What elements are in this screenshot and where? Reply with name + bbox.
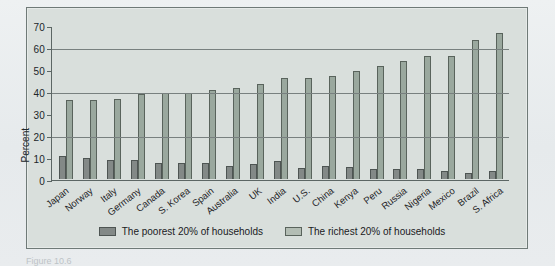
y-axis-tick-label: 60 (33, 44, 45, 55)
bar-richest (114, 99, 121, 179)
y-axis-tick-label: 0 (39, 176, 45, 187)
plot-wrapper: Percent 010203040506070 JapanNorwayItaly… (27, 8, 527, 248)
bar-richest (185, 93, 192, 179)
y-axis-tick-label: 50 (33, 66, 45, 77)
y-axis-title: Percent (20, 128, 31, 162)
x-axis-label-cell: S. Africa (486, 183, 510, 231)
gridline (52, 137, 509, 138)
x-axis-label-cell: Norway (76, 183, 100, 231)
bar-poorest (417, 169, 424, 179)
bar-richest (377, 66, 384, 179)
bar-richest (90, 100, 97, 179)
y-axis-tick (47, 71, 52, 72)
x-axis-label-cell: Australia (221, 183, 245, 231)
bar-poorest (489, 171, 496, 179)
x-axis-label: UK (247, 185, 264, 202)
bar-poorest (298, 168, 305, 179)
bar-poorest (83, 158, 90, 179)
bar-richest (496, 33, 503, 179)
gridline (52, 93, 509, 94)
bar-poorest (59, 156, 66, 179)
bar-poorest (346, 167, 353, 179)
x-axis-label-cell: India (269, 183, 293, 231)
bar-richest (329, 76, 336, 179)
figure-panel: Percent 010203040506070 JapanNorwayItaly… (26, 7, 528, 249)
bar-poorest (131, 160, 138, 179)
y-axis-tick (47, 27, 52, 28)
screenshot-root: Percent 010203040506070 JapanNorwayItaly… (0, 0, 555, 266)
bar-richest (66, 100, 73, 179)
bar-poorest (226, 166, 233, 179)
legend-swatch-richest (285, 227, 302, 236)
bar-poorest (250, 164, 257, 179)
chart-legend: The poorest 20% of householdsThe richest… (52, 226, 492, 237)
legend-item: The richest 20% of households (285, 226, 445, 237)
y-axis-tick (47, 115, 52, 116)
bar-poorest (155, 163, 162, 180)
y-axis-tick (47, 181, 52, 182)
x-axis-labels: JapanNorwayItalyGermanyCanadaS. KoreaSpa… (52, 183, 510, 231)
bar-richest (209, 90, 216, 179)
bar-poorest (465, 173, 472, 179)
legend-item: The poorest 20% of households (99, 226, 263, 237)
bar-richest (233, 88, 240, 179)
x-axis-label-cell: UK (245, 183, 269, 231)
x-axis-label-cell: S. Korea (173, 183, 197, 231)
y-axis-tick-label: 40 (33, 88, 45, 99)
y-axis-tick-label: 30 (33, 110, 45, 121)
gridline (52, 49, 509, 50)
x-axis-label-cell: U.S. (293, 183, 317, 231)
bar-poorest (274, 161, 281, 179)
legend-label: The poorest 20% of households (122, 226, 263, 237)
bar-richest (353, 71, 360, 179)
bar-richest (400, 61, 407, 179)
legend-label: The richest 20% of households (308, 226, 445, 237)
figure-caption: Figure 10.6 (26, 256, 72, 266)
bar-poorest (202, 163, 209, 180)
plot-area: 010203040506070 (51, 27, 509, 181)
legend-swatch-poorest (99, 227, 116, 236)
bar-richest (472, 40, 479, 179)
x-axis-label-cell: Mexico (438, 183, 462, 231)
y-axis-tick-label: 70 (33, 22, 45, 33)
bar-richest (448, 56, 455, 179)
x-axis-label: U.S. (291, 185, 312, 205)
bar-poorest (370, 169, 377, 179)
y-axis-tick (47, 159, 52, 160)
bar-poorest (322, 166, 329, 179)
bar-poorest (393, 169, 400, 179)
x-axis-label-cell: Kenya (341, 183, 365, 231)
bar-richest (257, 84, 264, 179)
bar-poorest (107, 160, 114, 179)
x-axis-label: India (265, 185, 288, 206)
bar-poorest (178, 163, 185, 180)
bar-poorest (441, 171, 448, 179)
bar-richest (162, 93, 169, 179)
y-axis-tick-label: 20 (33, 132, 45, 143)
y-axis-tick-label: 10 (33, 154, 45, 165)
bar-richest (424, 56, 431, 179)
